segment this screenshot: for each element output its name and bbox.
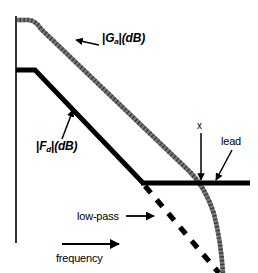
bode-plot-figure: |Ga|(dB) |Fd|(dB) x lead low-pass freque… [0, 0, 258, 273]
label-gain-curve: |Ga|(dB) [102, 32, 145, 46]
label-gain-units: (dB) [122, 31, 145, 45]
label-lead: lead [221, 136, 241, 147]
label-gain-subscript: a [114, 37, 118, 46]
label-gain-base: G [105, 31, 114, 45]
label-low-pass: low-pass [77, 211, 119, 222]
label-filter-curve: |Fd|(dB) [36, 140, 77, 154]
filter-curve-fd [16, 70, 144, 184]
lead-leader-arrow [216, 150, 232, 180]
label-filter-subscript: d [46, 145, 51, 154]
fd-leader-arrow [62, 110, 73, 139]
label-crossover-marker: x [197, 121, 202, 131]
label-filter-units: (dB) [54, 139, 77, 153]
label-frequency-axis: frequency [56, 253, 103, 264]
ga-leader-arrow [76, 40, 99, 45]
